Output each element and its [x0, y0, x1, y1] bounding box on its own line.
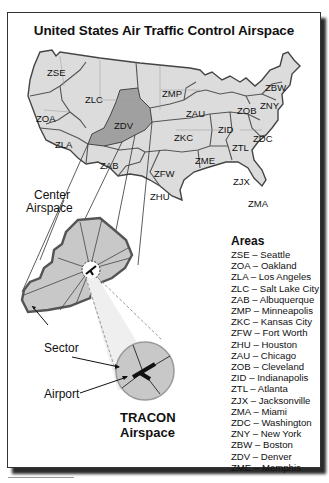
- legend-item: ZAB – Albuquerque: [231, 294, 319, 305]
- legend-item: ZDV – Denver: [231, 451, 319, 462]
- legend-item: ZHU – Houston: [231, 339, 319, 350]
- map-label-zkc: ZKC: [174, 132, 193, 143]
- map-label-ztl: ZTL: [232, 142, 249, 153]
- map-label-zma: ZMA: [248, 198, 269, 209]
- legend-item: ZJX – Jacksonville: [231, 395, 319, 406]
- map-label-zbw: ZBW: [265, 82, 286, 93]
- map-label-zla: ZLA: [55, 139, 73, 150]
- legend-item: ZMP – Minneapolis: [231, 305, 319, 316]
- map-label-zme: ZME: [195, 155, 215, 166]
- sector-label: Sector: [44, 341, 79, 355]
- center-airspace-label-line2: Airspace: [26, 201, 73, 215]
- enlarged-center-shape: [22, 218, 132, 312]
- map-label-zau: ZAU: [186, 108, 205, 119]
- legend-item: ZSE – Seattle: [231, 249, 319, 260]
- tracon-label-line1: TRACON: [120, 410, 176, 425]
- map-label-zob: ZOB: [237, 105, 257, 116]
- map-label-zjx: ZJX: [233, 176, 251, 187]
- map-label-zid: ZID: [218, 124, 233, 135]
- map-label-zdv: ZDV: [114, 120, 134, 131]
- airport-label: Airport: [44, 387, 80, 401]
- legend-item: ZME – Memphis: [231, 462, 319, 473]
- legend-item: ZLA – Los Angeles: [231, 271, 319, 282]
- map-label-zse: ZSE: [47, 67, 65, 78]
- legend-item: ZKC – Kansas City: [231, 316, 319, 327]
- legend-item: ZOB – Cleveland: [231, 361, 319, 372]
- center-airspace-label-line1: Center: [34, 188, 70, 202]
- map-label-zdc: ZDC: [253, 133, 273, 144]
- areas-legend: Areas ZSE – Seattle ZOA – Oakland ZLA – …: [231, 234, 319, 473]
- legend-item: ZFW – Fort Worth: [231, 327, 319, 338]
- map-label-zoa: ZOA: [36, 113, 56, 124]
- map-label-zfw: ZFW: [154, 168, 175, 179]
- map-label-zlc: ZLC: [85, 94, 103, 105]
- legend-item: ZNY – New York: [231, 428, 319, 439]
- legend-item: ZBW – Boston: [231, 439, 319, 450]
- legend-item: ZAU – Chicago: [231, 350, 319, 361]
- map-label-zny: ZNY: [260, 100, 280, 111]
- map-label-zmp: ZMP: [162, 88, 182, 99]
- legend-heading: Areas: [231, 234, 319, 248]
- map-label-zhu: ZHU: [150, 191, 170, 202]
- legend-item: ZDC – Washington: [231, 417, 319, 428]
- legend-item: ZTL – Atlanta: [231, 383, 319, 394]
- legend-item: ZLC – Salt Lake City: [231, 283, 319, 294]
- legend-item: ZMA – Miami: [231, 406, 319, 417]
- legend-item: ZID – Indianapolis: [231, 372, 319, 383]
- tracon-label-line2: Airspace: [120, 425, 175, 440]
- legend-item: ZOA – Oakland: [231, 260, 319, 271]
